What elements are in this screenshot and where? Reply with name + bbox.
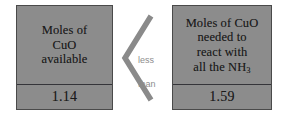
left-box-label-line-1: Moles of (42, 23, 88, 37)
left-quantity-box: Moles of CuO available 1.14 (16, 5, 113, 110)
right-box-label: Moles of CuO needed to react with all th… (173, 6, 271, 85)
left-box-label: Moles of CuO available (17, 6, 112, 85)
right-box-label-line-2: needed to (197, 30, 246, 44)
left-box-value: 1.14 (52, 89, 78, 105)
right-box-label-line-4: all the NH3 (193, 60, 250, 74)
right-box-label-text: Moles of CuO needed to react with all th… (186, 16, 259, 75)
left-box-label-line-3: available (41, 52, 87, 66)
left-box-label-line-2: CuO (53, 38, 77, 52)
relation-caption: less than (138, 43, 168, 91)
right-box-label-line-4-text: all the NH (193, 60, 246, 74)
right-quantity-box: Moles of CuO needed to react with all th… (172, 5, 272, 110)
relation-caption-line-2: than (138, 79, 156, 89)
left-box-label-text: Moles of CuO available (41, 23, 87, 67)
right-box-label-line-3: react with (197, 45, 248, 59)
comparison-diagram: Moles of CuO available 1.14 less than Mo… (0, 0, 283, 116)
ammonia-subscript: 3 (246, 65, 250, 75)
right-box-value: 1.59 (209, 89, 235, 105)
left-box-value-cell: 1.14 (17, 85, 112, 109)
right-box-value-cell: 1.59 (173, 85, 271, 109)
right-box-label-line-1: Moles of CuO (186, 16, 259, 30)
relation-caption-line-1: less (138, 55, 154, 65)
